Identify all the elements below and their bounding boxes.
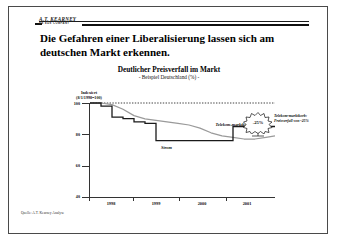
slide: A.T. KEARNEY AN EDS COMPANY Die Gefahren… <box>8 6 328 234</box>
brand-logo: A.T. KEARNEY AN EDS COMPANY <box>39 16 309 28</box>
callout-badge-value: -25% <box>243 120 273 125</box>
source-note: Quelle: A.T. Kearney Analyse <box>21 211 64 215</box>
logo-rule-thick <box>82 24 309 26</box>
page-title: Die Gefahren einer Liberalisierung lasse… <box>40 31 298 59</box>
series-label-strom: Strom <box>161 145 172 150</box>
chart-subtitle: - Beispiel Deutschland (%) - <box>9 74 329 80</box>
callout-note: Telekom-marktkorb: Preisverfall von -25% <box>274 114 316 123</box>
logo-rule-thin <box>39 21 309 22</box>
y-axis-label-line2: (8/1/1998=100) <box>61 96 117 101</box>
chart-title: Deutlicher Preisverfall im Markt <box>9 65 329 74</box>
y-axis-label: Indexiert (8/1/1998=100) <box>61 91 117 100</box>
brand-tagline: AN EDS COMPANY <box>39 22 70 25</box>
chart-plot-area: 100 80 60 40 1998 1999 2000 2001 Strom T… <box>71 101 279 203</box>
callout-starburst: -25% <box>243 112 273 134</box>
